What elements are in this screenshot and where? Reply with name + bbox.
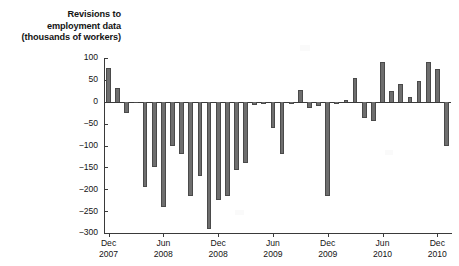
x-tick-label-year: 2008	[143, 249, 183, 260]
bar	[380, 62, 385, 101]
y-tick-label: −50	[66, 119, 98, 128]
bar	[252, 102, 257, 106]
bar	[170, 102, 175, 146]
bar	[426, 62, 431, 102]
x-tick-label: Jun2009	[253, 238, 293, 260]
bar	[298, 90, 303, 102]
bar	[435, 69, 440, 102]
x-tick-label-month: Dec	[417, 238, 457, 249]
chart-title-line-2: employment data	[4, 21, 121, 33]
bar	[417, 81, 422, 102]
bar	[344, 100, 349, 102]
y-tick-label: −300	[66, 228, 98, 237]
bar	[225, 102, 230, 196]
chart-title-line-1: Revisions to	[4, 9, 121, 21]
bar	[207, 102, 212, 229]
x-tick-label-month: Jun	[143, 238, 183, 249]
y-tick-mark	[104, 233, 108, 234]
bar	[444, 102, 449, 146]
y-tick-label: −150	[66, 163, 98, 172]
x-tick-label-month: Jun	[253, 238, 293, 249]
bar	[243, 102, 248, 163]
x-tick-label: Jun2008	[143, 238, 183, 260]
x-tick-mark	[109, 233, 110, 237]
bar	[398, 84, 403, 102]
bar	[234, 102, 239, 170]
bar	[307, 102, 312, 109]
bar	[289, 102, 294, 104]
bar	[124, 102, 129, 113]
bar	[389, 91, 394, 102]
x-tick-label-year: 2010	[417, 249, 457, 260]
bar	[179, 102, 184, 155]
bar	[353, 78, 358, 102]
bar	[334, 102, 339, 104]
x-tick-mark	[273, 233, 274, 237]
bar	[115, 88, 120, 102]
x-tick-label: Dec2007	[89, 238, 129, 260]
bar	[188, 102, 193, 196]
plot-area	[104, 58, 451, 233]
x-tick-label-year: 2008	[198, 249, 238, 260]
bar	[143, 102, 148, 187]
bar	[134, 102, 139, 103]
x-tick-label-year: 2009	[253, 249, 293, 260]
bar	[280, 102, 285, 155]
chart-figure: Revisions to employment data (thousands …	[0, 0, 459, 266]
x-tick-label-month: Dec	[308, 238, 348, 249]
x-tick-mark	[163, 233, 164, 237]
y-tick-label: 0	[66, 97, 98, 106]
chart-title: Revisions to employment data (thousands …	[4, 9, 121, 44]
bar	[216, 102, 221, 200]
x-tick-label-month: Dec	[89, 238, 129, 249]
x-tick-label: Dec2009	[308, 238, 348, 260]
y-tick-label: −200	[66, 185, 98, 194]
bar	[106, 68, 111, 102]
bar	[316, 102, 321, 106]
x-tick-label: Dec2008	[198, 238, 238, 260]
x-tick-label-year: 2009	[308, 249, 348, 260]
x-axis-line	[104, 233, 452, 234]
x-tick-label: Dec2010	[417, 238, 457, 260]
x-tick-label-month: Jun	[363, 238, 403, 249]
bar	[271, 102, 276, 128]
x-tick-mark	[437, 233, 438, 237]
x-tick-mark	[218, 233, 219, 237]
x-tick-label-month: Dec	[198, 238, 238, 249]
x-tick-mark	[328, 233, 329, 237]
y-tick-label: 50	[66, 75, 98, 84]
x-tick-label: Jun2010	[363, 238, 403, 260]
bar	[261, 102, 266, 104]
bar	[362, 102, 367, 119]
bar	[152, 102, 157, 168]
bar	[408, 97, 413, 102]
y-tick-label: 100	[66, 53, 98, 62]
bar	[325, 102, 330, 196]
x-tick-mark	[383, 233, 384, 237]
x-tick-label-year: 2010	[363, 249, 403, 260]
x-tick-label-year: 2007	[89, 249, 129, 260]
scan-artefact	[300, 45, 310, 51]
y-tick-label: −100	[66, 141, 98, 150]
y-tick-label: −250	[66, 207, 98, 216]
bar	[198, 102, 203, 176]
bar	[161, 102, 166, 207]
bar	[371, 102, 376, 122]
chart-title-line-3: (thousands of workers)	[4, 32, 121, 44]
